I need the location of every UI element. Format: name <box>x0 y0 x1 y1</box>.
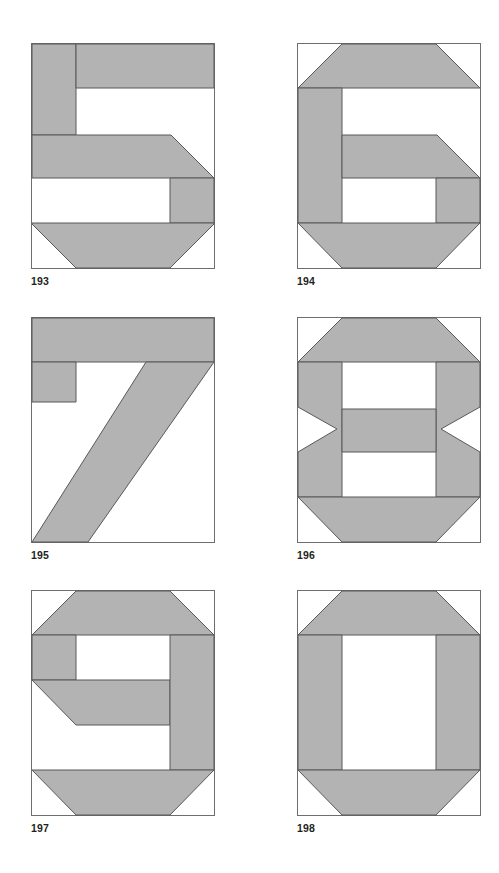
block-193-five <box>31 43 215 269</box>
block-196-eight <box>297 317 481 543</box>
block-197-nine-artwork <box>31 590 215 816</box>
patch-left-stub <box>32 362 76 402</box>
patch-right-vertical <box>170 635 214 770</box>
patch-right-vertical <box>436 635 480 770</box>
patch-top-bar <box>32 318 214 362</box>
patch-right-vertical <box>436 178 480 223</box>
block-caption-197: 197 <box>31 822 49 834</box>
block-195-seven <box>31 317 215 543</box>
block-caption-198: 198 <box>297 822 315 834</box>
patch-right-vertical <box>170 178 214 223</box>
block-198-zero-artwork <box>297 590 481 816</box>
block-194-six-artwork <box>297 43 481 269</box>
block-caption-195: 195 <box>31 549 49 561</box>
block-194-six <box>297 43 481 269</box>
patch-left-vertical <box>298 88 342 223</box>
patch-left-vertical <box>32 44 76 135</box>
pattern-sheet: 193 194 <box>0 0 499 873</box>
block-198-zero <box>297 590 481 816</box>
patch-center-bar <box>342 409 436 452</box>
block-196-eight-artwork <box>297 317 481 543</box>
block-caption-196: 196 <box>297 549 315 561</box>
block-caption-193: 193 <box>31 275 49 287</box>
block-197-nine <box>31 590 215 816</box>
block-195-seven-artwork <box>31 317 215 543</box>
patch-upper-left-vertical <box>32 635 76 680</box>
patch-left-vertical <box>298 635 342 770</box>
block-caption-194: 194 <box>297 275 315 287</box>
block-193-five-artwork <box>31 43 215 269</box>
patch-top-bar <box>76 44 214 88</box>
